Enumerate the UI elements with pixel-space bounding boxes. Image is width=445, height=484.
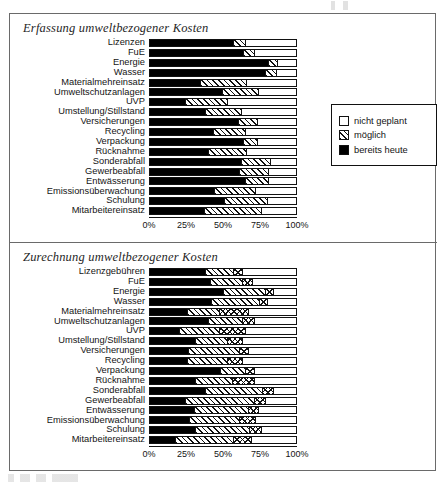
bar-segment-hatch xyxy=(222,89,259,95)
stacked-bar xyxy=(149,357,297,365)
bar-segment-solid xyxy=(150,80,200,86)
bar-row: Materialmehreinsatz xyxy=(22,307,312,317)
bar-row: Umweltschutzanlagen xyxy=(22,87,312,97)
bar-segment-solid xyxy=(150,198,224,204)
legend-label: bereits heute xyxy=(354,145,408,155)
bar-category-label: Wasser xyxy=(22,297,149,307)
axis-tick: 0% xyxy=(142,449,155,459)
bar-segment-empty xyxy=(251,437,296,443)
stacked-bar xyxy=(149,128,297,136)
bar-segment-hatch xyxy=(205,109,240,115)
bar-segment-solid xyxy=(150,99,185,105)
stacked-bar xyxy=(149,49,297,57)
bar-segment-solid xyxy=(150,159,241,165)
stacked-bar xyxy=(149,317,297,325)
bar-row: Energie xyxy=(22,58,312,68)
bar-segment-hatch xyxy=(175,437,233,443)
bar-segment-solid xyxy=(150,427,195,433)
bar-category-label: Wasser xyxy=(22,68,149,78)
x-axis-erfassung: 0%25%50%75%100% xyxy=(149,217,299,230)
stacked-bar xyxy=(149,347,297,355)
stacked-bar xyxy=(149,298,297,306)
bar-segment-cross xyxy=(227,358,242,364)
bar-segment-cross xyxy=(259,299,266,305)
bar-segment-solid xyxy=(150,188,214,194)
bar-category-label: Sonderabfall xyxy=(22,157,149,167)
bar-segment-solid xyxy=(150,437,175,443)
bar-segment-hatch xyxy=(223,289,265,295)
bar-segment-empty xyxy=(267,198,296,204)
bar-segment-empty xyxy=(242,358,296,364)
bar-row: Sonderabfall xyxy=(22,386,312,396)
bar-segment-hatch xyxy=(205,388,262,394)
stacked-bar xyxy=(149,268,297,276)
stacked-bar xyxy=(149,158,297,166)
bar-segment-cross xyxy=(265,289,272,295)
bar-segment-solid xyxy=(150,109,205,115)
stacked-bar xyxy=(149,337,297,345)
bar-segment-empty xyxy=(268,169,296,175)
bar-segment-solid xyxy=(150,50,243,56)
legend-item: nicht geplant xyxy=(339,116,427,126)
bar-segment-cross xyxy=(219,328,245,334)
x-axis-zurechnung: 0%25%50%75%100% xyxy=(149,446,299,459)
axis-tick: 75% xyxy=(251,220,269,230)
stacked-bar xyxy=(149,308,297,316)
bar-segment-hatch xyxy=(268,60,277,66)
bar-segment-cross xyxy=(254,398,266,404)
bar-segment-empty xyxy=(254,318,296,324)
bar-segment-solid xyxy=(150,129,213,135)
bar-row: Lizenzen xyxy=(22,38,312,48)
scan-artifact-top xyxy=(329,1,439,10)
bar-segment-solid xyxy=(150,368,220,374)
bar-segment-hatch xyxy=(220,368,245,374)
bar-row: Entwässerung xyxy=(22,176,312,186)
bar-segment-solid xyxy=(150,60,268,66)
bar-segment-cross xyxy=(249,427,261,433)
bar-segment-cross xyxy=(227,338,242,344)
bar-row: Schulung xyxy=(22,425,312,435)
bar-segment-hatch xyxy=(200,80,247,86)
bar-row: Emissionsüberwachung xyxy=(22,415,312,425)
legend-erfassung: nicht geplantmöglichbereits heute xyxy=(331,104,437,166)
stacked-bar xyxy=(149,168,297,176)
axis-tick: 100% xyxy=(285,220,308,230)
stacked-bar xyxy=(149,187,297,195)
bar-segment-solid xyxy=(150,338,195,344)
legend-item: bereits heute xyxy=(339,145,427,155)
bar-segment-empty xyxy=(258,89,296,95)
bar-segment-hatch xyxy=(213,129,245,135)
bar-segment-empty xyxy=(277,60,296,66)
bar-segment-solid xyxy=(150,279,210,285)
stacked-bar xyxy=(149,278,297,286)
stacked-bar xyxy=(149,377,297,385)
chart-title-zurechnung: Zurechnung umweltbezogener Kosten xyxy=(23,250,218,265)
bar-segment-empty xyxy=(261,427,296,433)
stacked-bar xyxy=(149,207,297,215)
legend-label: nicht geplant xyxy=(354,116,407,126)
axis-tick: 100% xyxy=(285,449,308,459)
bar-segment-hatch xyxy=(208,149,246,155)
bar-segment-cross xyxy=(232,378,254,384)
bar-category-label: Mitarbeitereinsatz xyxy=(22,435,149,445)
bar-segment-hatch xyxy=(243,50,253,56)
bar-segment-solid xyxy=(150,40,233,46)
bar-row: Mitarbeitereinsatz xyxy=(22,435,312,445)
bar-segment-hatch xyxy=(179,328,218,334)
bar-segment-solid xyxy=(150,289,223,295)
bar-segment-hatch xyxy=(211,299,259,305)
bar-row: Versicherungen xyxy=(22,346,312,356)
stacked-bar xyxy=(149,327,297,335)
bar-segment-hatch xyxy=(224,198,266,204)
bar-segment-empty xyxy=(268,178,296,184)
bar-segment-hatch xyxy=(195,338,227,344)
bar-row: Verpackung xyxy=(22,137,312,147)
bar-segment-hatch xyxy=(204,208,261,214)
bar-segment-empty xyxy=(252,279,296,285)
bar-segment-hatch xyxy=(205,269,233,275)
bar-segment-solid xyxy=(150,119,238,125)
bar-segment-empty xyxy=(270,159,296,165)
axis-tick-labels: 0%25%50%75%100% xyxy=(149,218,297,230)
bar-segment-empty xyxy=(245,328,296,334)
bar-segment-empty xyxy=(248,348,296,354)
